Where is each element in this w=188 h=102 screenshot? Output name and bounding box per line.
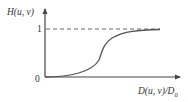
x-axis-label-subscript: 0 xyxy=(174,91,177,98)
x-axis-label: D(u, v)/D0 xyxy=(137,86,178,98)
y-axis-label: H(u, v) xyxy=(6,7,34,18)
x-axis-label-main: D(u, v)/D xyxy=(137,86,175,97)
tick-label-one: 1 xyxy=(37,24,42,34)
filter-response-diagram: H(u, v) 1 0 D(u, v)/D0 xyxy=(0,0,188,102)
tick-label-zero: 0 xyxy=(35,74,40,84)
response-curve xyxy=(45,30,160,78)
